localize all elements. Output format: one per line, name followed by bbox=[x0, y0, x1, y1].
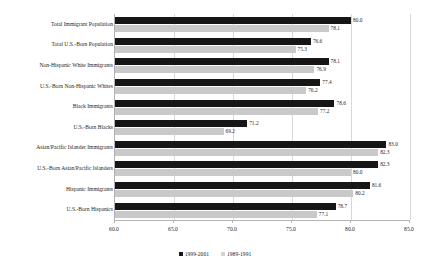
bar-value-label: 76.6 bbox=[311, 38, 322, 45]
bar-value-label: 77.2 bbox=[318, 108, 329, 115]
x-axis-tick-label: 80.0 bbox=[345, 226, 355, 233]
plot-area: Total Immigrant Population80.078.1Total … bbox=[114, 14, 411, 220]
bar-older bbox=[115, 25, 329, 32]
bar-value-label: 78.6 bbox=[334, 100, 345, 107]
bar-older bbox=[115, 190, 353, 197]
x-axis-tick bbox=[350, 220, 351, 223]
legend-swatch bbox=[221, 252, 225, 256]
bar-recent bbox=[115, 141, 386, 148]
bar-value-label: 80.2 bbox=[353, 190, 364, 197]
bar-older bbox=[115, 66, 314, 73]
legend-item[interactable]: 1999-2001 bbox=[179, 250, 209, 258]
bar-value-label: 77.4 bbox=[320, 79, 331, 86]
bar-row: U.S.-Born Blacks71.269.2 bbox=[115, 117, 410, 138]
bar-row: Total U.S.-Born Population76.675.3 bbox=[115, 35, 410, 56]
bar-older bbox=[115, 169, 351, 176]
category-label: U.S.-Born Blacks bbox=[1, 124, 113, 131]
bar-older bbox=[115, 108, 318, 115]
bar-row: U.S.-Born Non-Hispanic Whites77.476.2 bbox=[115, 76, 410, 97]
legend: 1999-20011989-1991 bbox=[0, 250, 430, 258]
bar-value-label: 76.2 bbox=[306, 87, 317, 94]
bar-row: Total Immigrant Population80.078.1 bbox=[115, 14, 410, 35]
bar-value-label: 78.1 bbox=[329, 25, 340, 32]
bar-row: Hispanic Immigrants81.680.2 bbox=[115, 179, 410, 200]
bar-value-label: 81.6 bbox=[370, 182, 381, 189]
bar-older bbox=[115, 211, 317, 218]
bar-row: U.S.-Born Asian/Pacific Islanders82.380.… bbox=[115, 158, 410, 179]
legend-swatch bbox=[179, 252, 183, 256]
x-axis bbox=[114, 220, 409, 221]
gridline bbox=[410, 14, 411, 220]
bar-recent bbox=[115, 100, 334, 107]
bar-recent bbox=[115, 161, 378, 168]
bar-value-label: 80.0 bbox=[351, 17, 362, 24]
bar-recent bbox=[115, 120, 247, 127]
bar-value-label: 75.3 bbox=[296, 46, 307, 53]
bar-value-label: 80.0 bbox=[351, 169, 362, 176]
bar-recent bbox=[115, 182, 370, 189]
x-axis-tick bbox=[291, 220, 292, 223]
bar-row: U.S.-Born Hispanics78.777.1 bbox=[115, 199, 410, 220]
bar-value-label: 78.1 bbox=[329, 58, 340, 65]
bar-older bbox=[115, 87, 306, 94]
bar-value-label: 69.2 bbox=[224, 128, 235, 135]
bar-recent bbox=[115, 203, 336, 210]
bar-recent bbox=[115, 79, 320, 86]
legend-label: 1989-1991 bbox=[227, 251, 251, 257]
x-axis-tick bbox=[409, 220, 410, 223]
legend-label: 1999-2001 bbox=[185, 251, 209, 257]
x-axis-tick-label: 65.0 bbox=[168, 226, 178, 233]
x-axis-tick bbox=[232, 220, 233, 223]
horizontal-bar-chart: Total Immigrant Population80.078.1Total … bbox=[0, 0, 430, 266]
bar-value-label: 78.7 bbox=[336, 203, 347, 210]
bar-value-label: 82.3 bbox=[378, 161, 389, 168]
bar-value-label: 83.0 bbox=[386, 141, 397, 148]
legend-item[interactable]: 1989-1991 bbox=[221, 250, 251, 258]
bar-row: Non-Hispanic White Immigrants78.176.9 bbox=[115, 55, 410, 76]
bar-row: Asian/Pacific Islander Immigrants83.082.… bbox=[115, 138, 410, 159]
bar-value-label: 77.1 bbox=[317, 211, 328, 218]
category-label: U.S.-Born Asian/Pacific Islanders bbox=[1, 165, 113, 172]
bar-recent bbox=[115, 38, 311, 45]
category-label: Hispanic Immigrants bbox=[1, 186, 113, 193]
bar-value-label: 82.3 bbox=[378, 149, 389, 156]
category-label: Black Immigrants bbox=[1, 103, 113, 110]
x-axis-tick-label: 85.0 bbox=[404, 226, 414, 233]
x-axis-tick-label: 75.0 bbox=[286, 226, 296, 233]
x-axis-tick bbox=[173, 220, 174, 223]
category-label: U.S.-Born Hispanics bbox=[1, 206, 113, 213]
bar-row: Black Immigrants78.677.2 bbox=[115, 96, 410, 117]
bar-older bbox=[115, 46, 296, 53]
x-axis-tick-label: 60.0 bbox=[109, 226, 119, 233]
x-axis-tick-label: 70.0 bbox=[227, 226, 237, 233]
bar-older bbox=[115, 128, 224, 135]
bar-value-label: 76.9 bbox=[314, 66, 325, 73]
category-label: U.S.-Born Non-Hispanic Whites bbox=[1, 83, 113, 90]
bar-recent bbox=[115, 58, 329, 65]
category-label: Total Immigrant Population bbox=[1, 21, 113, 28]
bar-older bbox=[115, 149, 378, 156]
bar-value-label: 71.2 bbox=[247, 120, 258, 127]
x-axis-tick bbox=[114, 220, 115, 223]
category-label: Total U.S.-Born Population bbox=[1, 41, 113, 48]
bar-recent bbox=[115, 17, 351, 24]
category-label: Asian/Pacific Islander Immigrants bbox=[1, 144, 113, 151]
category-label: Non-Hispanic White Immigrants bbox=[1, 62, 113, 69]
